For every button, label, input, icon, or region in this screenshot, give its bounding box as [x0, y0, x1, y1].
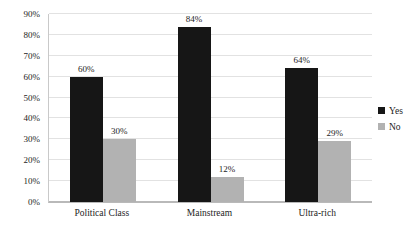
bar-ultra-rich-no: [318, 141, 351, 202]
y-tick-label: 0%: [28, 197, 40, 207]
bar-value-label: 12%: [219, 164, 236, 174]
bar-chart: 0%10%20%30%40%50%60%70%80%90% 60%30%84%1…: [0, 0, 416, 238]
x-axis: Political ClassMainstreamUltra-rich: [48, 206, 372, 228]
bar-value-label: 60%: [78, 64, 95, 74]
bar-value-label: 64%: [293, 55, 310, 65]
bar-political-class-yes: [70, 77, 103, 202]
y-tick-label: 30%: [24, 134, 41, 144]
bar-political-class-no: [103, 139, 136, 202]
legend-swatch-icon: [378, 123, 385, 130]
bar-value-label: 30%: [111, 126, 128, 136]
chart-legend: YesNo: [378, 103, 416, 135]
y-tick-label: 20%: [24, 155, 41, 165]
legend-label: No: [389, 122, 401, 132]
y-tick-label: 40%: [24, 113, 41, 123]
legend-swatch-icon: [378, 107, 385, 114]
plot-area: 60%30%84%12%64%29%: [48, 14, 372, 203]
gridline-70%: [49, 55, 372, 56]
bar-mainstream-no: [211, 177, 244, 202]
legend-item-no[interactable]: No: [378, 119, 416, 134]
legend-item-yes[interactable]: Yes: [378, 103, 416, 118]
x-tick-label: Ultra-rich: [298, 208, 335, 218]
bar-mainstream-yes: [178, 27, 211, 202]
x-tick-label: Mainstream: [187, 208, 232, 218]
y-tick-label: 70%: [24, 51, 41, 61]
bar-ultra-rich-yes: [285, 68, 318, 202]
y-tick-label: 60%: [24, 72, 41, 82]
y-axis: 0%10%20%30%40%50%60%70%80%90%: [0, 14, 44, 203]
y-tick-label: 50%: [24, 93, 41, 103]
legend-label: Yes: [389, 106, 403, 116]
gridline-80%: [49, 34, 372, 35]
bar-value-label: 29%: [326, 128, 343, 138]
y-tick-label: 10%: [24, 176, 41, 186]
y-tick-label: 90%: [24, 9, 41, 19]
bar-value-label: 84%: [186, 14, 203, 24]
x-tick-label: Political Class: [75, 208, 130, 218]
gridline-90%: [49, 13, 372, 14]
y-tick-label: 80%: [24, 30, 41, 40]
